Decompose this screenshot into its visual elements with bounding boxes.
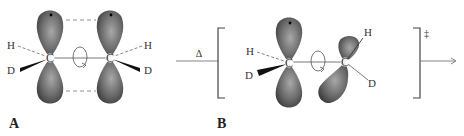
atom-d-right: D [144, 64, 152, 76]
delta-label: Δ [196, 48, 203, 59]
panel-label-b: B [217, 116, 226, 131]
reaction-arrow-heat: Δ [176, 48, 218, 61]
atom-h-left: H [7, 39, 15, 51]
p-orbital-right-rotated [318, 36, 359, 103]
transition-state-symbol: ‡ [424, 28, 429, 39]
panel-b: ‡ C C H D H D [217, 18, 429, 132]
rotation-arrow-icon [311, 51, 325, 72]
atom-d-left: D [245, 69, 253, 81]
panel-a: C C H D H D A [7, 11, 152, 132]
atom-c-right: C [106, 51, 114, 65]
reaction-arrow-out [420, 58, 456, 64]
diagram-canvas: C C H D H D A Δ ‡ [0, 0, 464, 136]
atom-h-right: H [144, 39, 152, 51]
atom-h-right: H [364, 26, 372, 38]
panel-label-a: A [9, 116, 20, 131]
atom-c-left: C [285, 56, 293, 70]
atom-d-left: D [7, 64, 15, 76]
electron-dot [50, 14, 53, 17]
atom-d-right: D [368, 77, 376, 89]
atom-h-left: H [246, 45, 254, 57]
atom-c-left: C [46, 51, 54, 65]
electron-dot [289, 22, 292, 25]
hashed-bond-h-left [257, 52, 287, 62]
electron-dot [110, 14, 113, 17]
rotation-arrow-icon [73, 47, 87, 68]
bracket-right [413, 28, 420, 98]
atom-c-right: C [341, 55, 349, 69]
bond-d-right [348, 64, 368, 80]
bracket-left [218, 28, 225, 98]
